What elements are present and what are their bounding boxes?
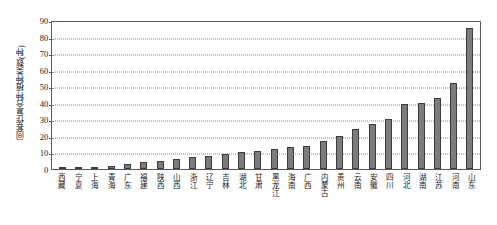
bar-slot — [119, 22, 135, 169]
x-label-slot: 甘肃 — [250, 173, 266, 223]
bar — [140, 162, 147, 169]
x-label-slot: 湖北 — [233, 173, 249, 223]
y-axis-tick-60: 60 — [40, 66, 48, 76]
bar — [271, 149, 278, 169]
x-label-slot: 西藏 — [53, 173, 69, 223]
bar-slot — [250, 22, 266, 169]
x-axis-label: 黑龙江 — [270, 173, 278, 223]
x-label-slot: 贵州 — [332, 173, 348, 223]
y-axis-tick-30: 30 — [40, 115, 48, 125]
plot-area — [51, 21, 481, 170]
bar — [369, 124, 376, 169]
bar — [91, 167, 98, 169]
x-axis-label: 安徽 — [369, 173, 377, 223]
bar-slot — [364, 22, 380, 169]
x-label-slot: 福建 — [135, 173, 151, 223]
bar-slot — [201, 22, 217, 169]
bar-slot — [348, 22, 364, 169]
bar — [205, 156, 212, 169]
x-axis-label: 西藏 — [57, 173, 65, 223]
bar — [401, 104, 408, 169]
x-label-slot: 黑龙江 — [266, 173, 282, 223]
bar — [222, 154, 229, 169]
x-axis-label: 吉林 — [221, 173, 229, 223]
x-label-slot: 江苏 — [430, 173, 446, 223]
y-axis-tick-70: 70 — [40, 49, 48, 59]
x-axis-label: 内蒙古 — [320, 173, 328, 223]
bar-slot — [233, 22, 249, 169]
bar — [303, 146, 310, 169]
y-axis-tick-90: 90 — [40, 16, 48, 26]
bar — [254, 151, 261, 169]
y-axis-tick-10: 10 — [40, 148, 48, 158]
bar-slot — [315, 22, 331, 169]
bar — [385, 119, 392, 169]
bar-slot — [413, 22, 429, 169]
bar — [238, 152, 245, 169]
x-label-slot: 青海 — [102, 173, 118, 223]
x-label-slot: 云南 — [348, 173, 364, 223]
bar — [466, 28, 473, 169]
x-axis-label: 江苏 — [434, 173, 442, 223]
bar-slot — [103, 22, 119, 169]
y-axis-tick-50: 50 — [40, 82, 48, 92]
x-axis-label: 海南 — [287, 173, 295, 223]
x-label-slot: 海南 — [282, 173, 298, 223]
x-axis-label: 山西 — [172, 173, 180, 223]
y-axis-tick-labels: 0102030405060708090 — [26, 14, 48, 174]
x-label-slot: 广东 — [119, 173, 135, 223]
bar-slot — [168, 22, 184, 169]
bar — [320, 141, 327, 169]
x-label-slot: 四川 — [381, 173, 397, 223]
bar-slot — [446, 22, 462, 169]
bar-slot — [217, 22, 233, 169]
y-axis-tick-40: 40 — [40, 99, 48, 109]
bar-slot — [136, 22, 152, 169]
bar — [189, 157, 196, 169]
x-axis-label: 河南 — [451, 173, 459, 223]
x-axis-label: 山东 — [467, 173, 475, 223]
x-axis-label: 贵州 — [336, 173, 344, 223]
x-axis-label: 湖北 — [238, 173, 246, 223]
x-axis-label: 广东 — [123, 173, 131, 223]
bar-slot — [70, 22, 86, 169]
bar-slot — [87, 22, 103, 169]
x-axis-label: 广西 — [303, 173, 311, 223]
bars-container — [52, 22, 480, 169]
x-label-slot: 上海 — [86, 173, 102, 223]
bar-slot — [54, 22, 70, 169]
bar-slot — [299, 22, 315, 169]
x-axis-label: 福建 — [139, 173, 147, 223]
x-axis-label: 湖南 — [418, 173, 426, 223]
bar-slot — [462, 22, 478, 169]
bar — [108, 166, 115, 169]
x-label-slot: 广西 — [299, 173, 315, 223]
x-label-slot: 陕西 — [151, 173, 167, 223]
bar — [287, 147, 294, 169]
bar — [75, 167, 82, 169]
x-axis-label: 辽宁 — [205, 173, 213, 223]
bar-slot — [331, 22, 347, 169]
bar-slot — [152, 22, 168, 169]
bar — [124, 164, 131, 169]
x-label-slot: 内蒙古 — [315, 173, 331, 223]
x-axis-label: 河北 — [402, 173, 410, 223]
bar-chart: 间套作复合种植种类数(种) 0102030405060708090 西藏宁夏上海… — [0, 0, 497, 225]
x-axis-label: 陕西 — [156, 173, 164, 223]
x-label-slot: 宁夏 — [69, 173, 85, 223]
x-axis-label: 上海 — [90, 173, 98, 223]
x-label-slot: 吉林 — [217, 173, 233, 223]
bar-slot — [266, 22, 282, 169]
bar — [418, 103, 425, 169]
x-label-slot: 浙江 — [184, 173, 200, 223]
bar — [450, 83, 457, 169]
x-label-slot: 山西 — [168, 173, 184, 223]
x-axis-label: 云南 — [352, 173, 360, 223]
x-axis-label: 青海 — [107, 173, 115, 223]
bar — [59, 167, 66, 169]
x-label-slot: 山东 — [463, 173, 479, 223]
bar-slot — [380, 22, 396, 169]
x-label-slot: 河南 — [446, 173, 462, 223]
y-axis-tick-80: 80 — [40, 33, 48, 43]
y-axis-tick-20: 20 — [40, 132, 48, 142]
